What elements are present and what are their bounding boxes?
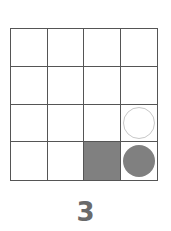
grid-cell-2-0 bbox=[11, 105, 48, 143]
grid-cell-1-0 bbox=[11, 67, 48, 105]
grid-cell-3-3 bbox=[121, 142, 158, 180]
puzzle-grid bbox=[10, 28, 158, 181]
grid-cell-2-2 bbox=[84, 105, 121, 143]
grid-cell-1-3 bbox=[121, 67, 158, 105]
hollow-circle-icon bbox=[123, 107, 155, 139]
solid-circle-icon bbox=[123, 145, 155, 177]
grid-cell-0-3 bbox=[121, 29, 158, 67]
grid-cell-1-2 bbox=[84, 67, 121, 105]
puzzle-number: 3 bbox=[0, 198, 171, 226]
grid-cell-3-2 bbox=[84, 142, 121, 180]
grid-cell-1-1 bbox=[48, 67, 85, 105]
grid-cell-0-1 bbox=[48, 29, 85, 67]
grid-cell-3-1 bbox=[48, 142, 85, 180]
grid-cell-2-3 bbox=[121, 105, 158, 143]
grid-cell-0-0 bbox=[11, 29, 48, 67]
grid-cell-2-1 bbox=[48, 105, 85, 143]
grid-cell-0-2 bbox=[84, 29, 121, 67]
grid-cell-3-0 bbox=[11, 142, 48, 180]
